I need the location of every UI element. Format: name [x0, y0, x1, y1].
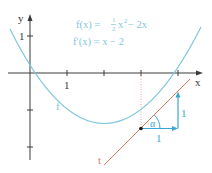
angle-label: α [150, 118, 156, 129]
formula-f-frac-den: 2 [112, 25, 116, 33]
tangent-point [139, 127, 143, 131]
slope-triangle [141, 92, 181, 132]
y-axis-arrow-icon [28, 14, 33, 21]
x-axis-label: x [195, 76, 201, 88]
formula-f-frac-num: 1 [112, 16, 116, 24]
y-axis-label: y [18, 12, 24, 24]
formula-f-tail: − 2x [128, 19, 148, 30]
formula-block: f(x) = 1 2 x 2 − 2x f′(x) = x − 2 [73, 16, 148, 48]
y-tick-label: 1 [19, 30, 25, 42]
curve-label: f [56, 100, 60, 112]
tangent-diagram: y x 1 1 f(x) = 1 2 x 2 − 2x f′(x) = x − … [0, 0, 212, 173]
formula-f-exp: 2 [124, 17, 127, 24]
rise-label: 1 [181, 107, 187, 119]
run-label: 1 [156, 132, 162, 144]
run-arrowhead-icon [172, 126, 178, 131]
x-axis-arrow-icon [196, 71, 203, 76]
formula-f-prime: f′(x) = x − 2 [73, 36, 124, 48]
tangent-label: t [98, 154, 101, 166]
x-tick-label: 1 [64, 79, 70, 91]
formula-f-prefix: f(x) = [76, 19, 100, 31]
